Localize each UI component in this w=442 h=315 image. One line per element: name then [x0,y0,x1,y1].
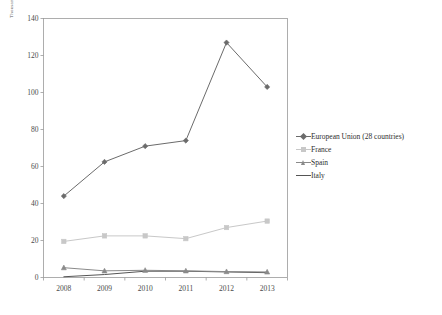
series-line [62,219,270,244]
series-polyline [64,221,267,241]
series-polyline [64,43,267,197]
data-point-marker [224,225,228,229]
legend-label: Italy [311,172,325,180]
data-point-marker [62,239,66,243]
data-point-marker [265,219,269,223]
legend-swatch-diamond-icon [296,132,311,141]
legend-swatch-square-icon [296,145,311,154]
plot-border [44,19,288,278]
series-line [61,40,270,199]
legend-item: Spain [296,156,440,169]
legend-swatch-triangle-icon [296,158,311,167]
legend-label: France [311,146,331,154]
chart-legend: European Union (28 countries)FranceSpain… [296,130,440,182]
data-point-marker [102,234,106,238]
data-point-marker [184,236,188,240]
data-point-marker [143,234,147,238]
legend-label: European Union (28 countries) [311,133,404,141]
series-line [61,265,269,274]
legend-label: Spain [311,159,328,167]
legend-item: Italy [296,169,440,182]
data-point-marker [183,138,188,143]
legend-item: European Union (28 countries) [296,130,440,143]
legend-item: France [296,143,440,156]
legend-swatch-none-icon [296,171,311,180]
line-chart: Thousands 020406080100120140 20082009201… [0,0,442,315]
data-point-marker [143,144,148,149]
